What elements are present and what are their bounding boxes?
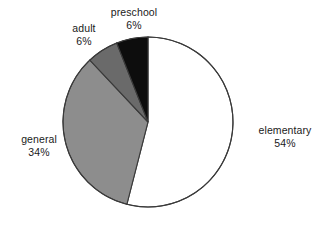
pie-label-general: general 34% [6,133,72,159]
pie-label-adult-value: 6% [56,35,112,48]
pie-label-adult-name: adult [56,22,112,35]
pie-label-general-value: 34% [6,146,72,159]
pie-label-elementary-name: elementary [245,124,325,137]
pie-label-elementary-value: 54% [245,137,325,150]
pie-label-general-name: general [6,133,72,146]
pie-slices [63,37,233,207]
pie-chart-graphic [0,0,329,225]
pie-label-adult: adult 6% [56,22,112,48]
pie-label-elementary: elementary 54% [245,124,325,150]
pie-chart-figure: preschool 6% adult 6% general 34% elemen… [0,0,329,225]
pie-label-preschool-name: preschool [96,6,172,19]
